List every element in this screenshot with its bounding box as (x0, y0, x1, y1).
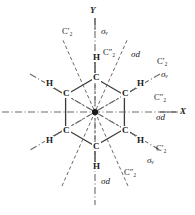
atom-h-top: H (92, 53, 101, 62)
label-c2-double-prime-upper: C″₂ (103, 48, 115, 57)
principal-axis-center-dot (92, 109, 98, 115)
label-sigma-v-top: σᵥ (101, 27, 108, 36)
atom-h-lower-left: H (45, 136, 54, 145)
label-sigma-v-lower: σᵥ (147, 156, 154, 165)
atom-h-lower-right: H (136, 136, 145, 145)
label-c2-prime-lower: C′₂ (156, 144, 167, 153)
label-c2-prime-right: C′₂ (157, 57, 168, 66)
atom-c-bottom: C (92, 142, 101, 151)
atom-c-lower-left: C (62, 126, 71, 135)
atom-c-top: C (92, 73, 101, 82)
atom-c-upper-right: C (121, 89, 130, 98)
label-sigma-d-upper: σd (131, 50, 140, 59)
label-sigma-d-bottom: σd (101, 177, 110, 186)
label-c2-double-prime-xaxis: C″₂ (154, 93, 166, 102)
label-c2-prime-top: C′₂ (62, 27, 73, 36)
atom-c-upper-left: C (62, 89, 71, 98)
atom-h-upper-left: H (45, 79, 54, 88)
label-sigma-d-xaxis: σd (156, 113, 165, 122)
x-axis-label: X (180, 107, 186, 116)
y-axis-label: Y (90, 6, 96, 15)
atom-h-bottom: H (92, 162, 101, 171)
atom-h-upper-right: H (136, 79, 145, 88)
symmetry-diagram-figure: .solid { stroke:#3a3a3a; stroke-width:1.… (0, 0, 195, 215)
label-c2-double-prime-bottom: C″₂ (124, 168, 136, 177)
atom-c-lower-right: C (121, 126, 130, 135)
diagram-canvas: .solid { stroke:#3a3a3a; stroke-width:1.… (0, 0, 195, 215)
label-sigma-v-right: σᵥ (161, 70, 168, 79)
